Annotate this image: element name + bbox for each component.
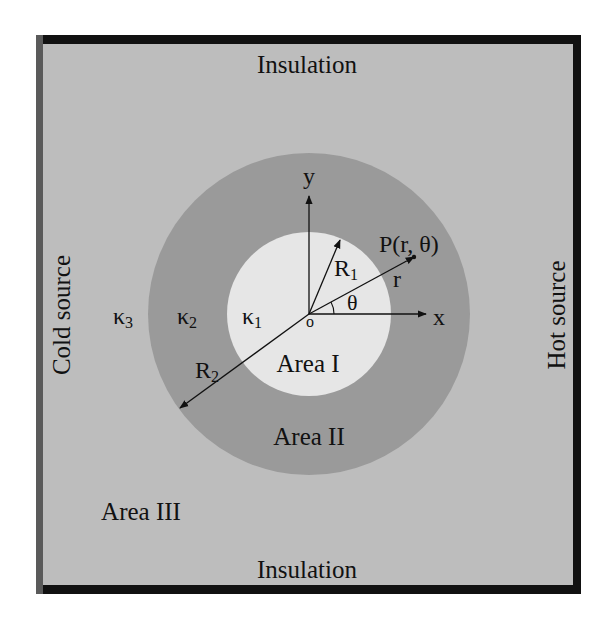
bottom-label: Insulation — [257, 556, 357, 583]
top-border — [36, 35, 581, 44]
theta-label: θ — [347, 290, 358, 315]
bottom-border — [36, 585, 581, 594]
right-border — [573, 35, 581, 594]
x-axis-label: x — [433, 304, 445, 330]
left-border — [36, 35, 43, 594]
heat-conduction-diagram: Insulation Insulation Cold source Hot so… — [0, 0, 606, 622]
point-p-label: P(r, θ) — [379, 231, 439, 257]
area-one-label: Area I — [276, 350, 339, 377]
top-label: Insulation — [257, 51, 357, 78]
y-axis-label: y — [303, 163, 315, 189]
area-three-label: Area III — [101, 498, 181, 525]
origin-label: o — [306, 313, 314, 330]
r-label: r — [393, 266, 401, 292]
right-label: Hot source — [543, 261, 570, 370]
left-label: Cold source — [48, 255, 75, 375]
area-two-label: Area II — [273, 423, 344, 450]
